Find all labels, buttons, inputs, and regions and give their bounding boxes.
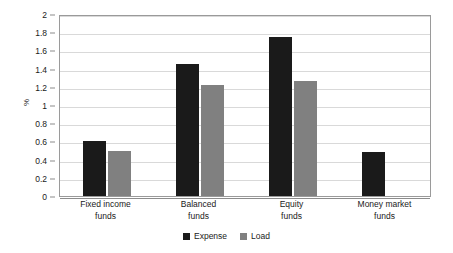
chart-legend: Expense Load: [0, 231, 453, 241]
y-axis-tick-mark: [50, 124, 55, 125]
legend-label-load: Load: [251, 231, 270, 241]
y-axis-tick-mark: [50, 142, 55, 143]
x-axis-category-label: Money market funds: [338, 199, 431, 222]
y-axis-tick-mark: [50, 106, 55, 107]
x-axis-category-label: Balanced funds: [152, 199, 245, 222]
y-axis-tick-label: 1: [42, 101, 47, 111]
bar-expense-3: [362, 152, 385, 196]
y-axis-tick-mark: [50, 69, 55, 70]
legend-item-expense: Expense: [183, 231, 227, 241]
plot-area: [59, 15, 431, 197]
legend-item-load: Load: [240, 231, 270, 241]
y-axis-tick-mark: [50, 160, 55, 161]
x-axis-category-label: Equity funds: [245, 199, 338, 222]
legend-swatch-expense-icon: [183, 233, 190, 240]
x-axis-category-label: Fixed income funds: [59, 199, 152, 222]
bar-load-1: [201, 85, 224, 196]
bar-expense-1: [176, 64, 199, 196]
y-axis-tick-label: 0.6: [35, 137, 47, 147]
y-axis-tick-label: 1.2: [35, 83, 47, 93]
bars-layer: [60, 16, 430, 196]
legend-swatch-load-icon: [240, 233, 247, 240]
y-axis-tick-label: 0.2: [35, 174, 47, 184]
y-axis-tick-label: 0: [42, 192, 47, 202]
y-axis-tick-mark: [50, 51, 55, 52]
y-axis-ticks: 00.20.40.60.811.21.41.61.82: [0, 0, 59, 213]
y-axis-tick-label: 1.4: [35, 65, 47, 75]
y-axis-tick-mark: [50, 197, 55, 198]
bar-load-0: [108, 151, 131, 196]
bar-expense-0: [83, 141, 106, 196]
x-axis-labels: Fixed income fundsBalanced fundsEquity f…: [59, 199, 431, 229]
bar-load-2: [294, 81, 317, 196]
y-axis-tick-mark: [50, 178, 55, 179]
bar-chart: % 00.20.40.60.811.21.41.61.82 Fixed inco…: [0, 0, 453, 253]
legend-label-expense: Expense: [194, 231, 227, 241]
y-axis-tick-label: 2: [42, 10, 47, 20]
y-axis-tick-label: 0.8: [35, 119, 47, 129]
y-axis-tick-mark: [50, 33, 55, 34]
y-axis-tick-mark: [50, 87, 55, 88]
y-axis-tick-label: 1.8: [35, 28, 47, 38]
y-axis-tick-label: 1.6: [35, 46, 47, 56]
y-axis-tick-label: 0.4: [35, 156, 47, 166]
bar-expense-2: [269, 37, 292, 196]
y-axis-tick-mark: [50, 15, 55, 16]
